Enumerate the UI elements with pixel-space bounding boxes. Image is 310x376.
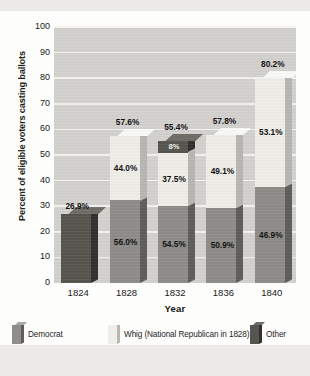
legend-item-other[interactable]: Other [250,321,286,347]
segment-top-face [117,129,155,136]
swatch-top [111,322,123,325]
y-tick-label: 20 [22,226,50,236]
y-tick-label: 70 [22,98,50,108]
page-top-band [0,0,310,11]
whig-swatch [108,325,117,344]
y-tick-label: 60 [22,123,50,133]
bar-total-label: 80.2% [247,59,299,69]
segment-value-label: 49.1% [203,166,241,176]
bar-total-label: 57.6% [102,117,154,127]
segment-top-face [166,134,204,141]
segment-value-label: 44.0% [107,163,145,173]
x-axis-tick-labels: 18241828183218361840 [54,287,296,303]
x-tick-label-1828: 1828 [105,287,149,298]
swatch-top [253,322,265,325]
bar-group-1828[interactable]: 56.0%44.0%57.6% [110,27,140,283]
y-tick-label: 40 [22,175,50,185]
x-tick-label-1840: 1840 [250,287,294,298]
segment-value-label: 46.9% [252,230,290,240]
y-tick-label: 100 [22,21,50,31]
chart-legend: DemocratWhig (National Republican in 182… [0,321,310,349]
bar-group-1824[interactable]: 26.9% [61,27,91,283]
y-axis-tick-labels: 0102030405060708090100 [22,27,50,283]
x-tick-label-1836: 1836 [201,287,245,298]
swatch-front [108,325,117,344]
y-tick-label: 90 [22,47,50,57]
bar-total-label: 57.8% [198,116,250,126]
other-swatch [250,325,259,344]
swatch-side [117,323,120,344]
segment-value-label: 53.1% [252,127,290,137]
segment-value-label: 37.5% [155,174,193,184]
legend-item-whig[interactable]: Whig (National Republican in 1828) [108,321,249,347]
swatch-front [250,325,259,344]
swatch-front [12,325,21,344]
segment-value-label: 54.5% [155,239,193,249]
swatch-side [259,323,262,344]
legend-label: Democrat [28,330,63,339]
segment-top-face [214,128,252,135]
swatch-side [21,323,24,344]
y-tick-label: 50 [22,149,50,159]
legend-label: Whig (National Republican in 1828) [124,330,249,339]
bar-group-1836[interactable]: 50.9%49.1%57.8% [206,27,236,283]
segment-value-label: 8% [155,142,193,151]
stacked-bar-chart: Percent of eligible voters casting ballo… [0,11,310,345]
x-axis-title: Year [54,303,296,314]
bar-segment-other-1824[interactable] [61,214,91,283]
segment-value-label: 26.9% [58,201,96,211]
segment-value-label: 50.9% [203,240,241,250]
swatch-top [15,322,27,325]
democrat-swatch [12,325,21,344]
bar-group-1840[interactable]: 46.9%53.1%80.2% [255,27,285,283]
bar-group-1832[interactable]: 54.5%37.5%8%55.4% [158,27,188,283]
x-tick-label-1824: 1824 [56,287,100,298]
y-tick-label: 30 [22,200,50,210]
bar-total-label: 55.4% [150,122,202,132]
y-tick-label: 80 [22,72,50,82]
page-bottom-band [0,345,310,376]
segment-front-face [61,214,91,283]
y-tick-label: 10 [22,251,50,261]
plot-area: 26.9%56.0%44.0%57.6%54.5%37.5%8%55.4%50.… [54,27,296,283]
segment-value-label: 56.0% [107,237,145,247]
legend-item-democrat[interactable]: Democrat [12,321,63,347]
segment-side-face [91,211,98,283]
chart-page: Percent of eligible voters casting ballo… [0,0,310,376]
x-tick-label-1832: 1832 [153,287,197,298]
legend-label: Other [266,330,286,339]
y-tick-label: 0 [22,277,50,287]
